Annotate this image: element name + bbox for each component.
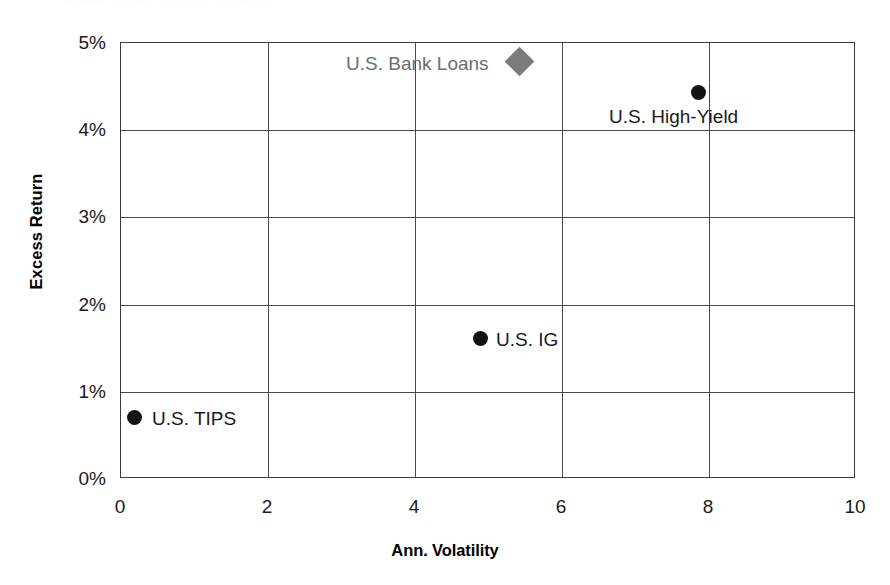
diamond-marker-icon xyxy=(504,46,534,76)
y-axis-title: Excess Return xyxy=(27,132,46,332)
gridline-y-3 xyxy=(121,217,854,218)
plot-area: U.S. TIPS U.S. IG U.S. High-Yield U.S. B… xyxy=(120,42,855,478)
data-point-us-high-yield[interactable] xyxy=(686,80,710,104)
data-point-us-bank-loans[interactable] xyxy=(507,49,531,73)
circle-marker-icon xyxy=(473,331,488,346)
gridline-y-4 xyxy=(121,130,854,131)
x-axis-tick-labels: 0 2 4 6 8 10 xyxy=(0,497,890,527)
x-tick-10: 10 xyxy=(825,497,885,516)
y-tick-0: 0% xyxy=(36,469,106,488)
gridline-y-1 xyxy=(121,392,854,393)
scatter-chart-figure: Excess Return vs. Ann. Volatility 5% 4% … xyxy=(0,0,890,585)
circle-marker-icon xyxy=(127,410,142,425)
y-tick-2: 2% xyxy=(36,295,106,314)
x-tick-8: 8 xyxy=(678,497,738,516)
gridline-x-6 xyxy=(562,43,563,477)
x-tick-4: 4 xyxy=(384,497,444,516)
gridline-y-2 xyxy=(121,305,854,306)
data-label-us-bank-loans: U.S. Bank Loans xyxy=(346,54,489,73)
circle-marker-icon xyxy=(691,85,706,100)
data-label-us-high-yield: U.S. High-Yield xyxy=(609,107,738,126)
data-label-us-ig: U.S. IG xyxy=(496,330,558,349)
x-tick-2: 2 xyxy=(237,497,297,516)
gridline-x-4 xyxy=(415,43,416,477)
y-tick-4: 4% xyxy=(36,120,106,139)
x-tick-0: 0 xyxy=(90,497,150,516)
y-tick-3: 3% xyxy=(36,207,106,226)
y-tick-5: 5% xyxy=(36,33,106,52)
data-point-us-ig[interactable] xyxy=(468,326,492,350)
data-label-us-tips: U.S. TIPS xyxy=(152,409,236,428)
data-point-us-tips[interactable] xyxy=(122,405,146,429)
chart-title-remnant: Excess Return vs. Ann. Volatility xyxy=(62,0,462,4)
y-tick-1: 1% xyxy=(36,382,106,401)
x-tick-6: 6 xyxy=(531,497,591,516)
x-axis-title: Ann. Volatility xyxy=(0,541,890,560)
gridline-x-2 xyxy=(268,43,269,477)
